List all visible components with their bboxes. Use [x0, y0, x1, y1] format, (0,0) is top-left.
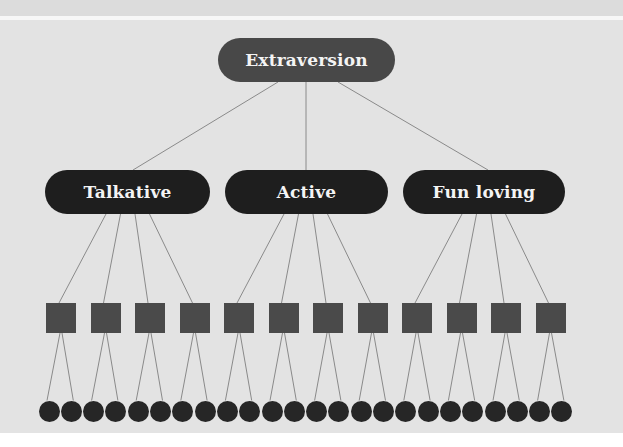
item-square [313, 303, 343, 333]
edge-item-response [463, 333, 475, 401]
edge-item-response [374, 333, 386, 401]
response-circle [172, 401, 193, 422]
edge-item-response [285, 333, 297, 401]
response-circle [485, 401, 506, 422]
item-square [491, 303, 521, 333]
node-fun-loving: Fun loving [403, 170, 565, 214]
edge-item-response [151, 333, 163, 401]
response-circle [150, 401, 171, 422]
node-active: Active [225, 170, 388, 214]
response-circle [195, 401, 216, 422]
edge-facet-item [237, 214, 284, 303]
edge-item-response [92, 333, 105, 401]
response-circle [551, 401, 572, 422]
edge-item-response [270, 333, 283, 401]
edge-facet-item [150, 214, 193, 303]
response-circle [373, 401, 394, 422]
edge-facet-item [135, 214, 148, 303]
response-circle [239, 401, 260, 422]
edge-facet-item [415, 214, 462, 303]
node-active-label: Active [277, 182, 337, 202]
edge-item-response [136, 333, 149, 401]
response-circle [306, 401, 327, 422]
response-circle [217, 401, 238, 422]
item-square [269, 303, 299, 333]
response-circle [440, 401, 461, 422]
edge-item-response [538, 333, 550, 401]
edge-item-response [225, 333, 238, 401]
response-circle [507, 401, 528, 422]
edge-facet-item [59, 214, 106, 303]
node-fun-loving-label: Fun loving [433, 182, 536, 202]
response-circle [462, 401, 483, 422]
edge-root-funloving [338, 82, 488, 170]
response-circle [529, 401, 550, 422]
item-square [180, 303, 210, 333]
edge-item-response [552, 333, 564, 401]
edge-facet-item [313, 214, 326, 303]
edge-item-response [315, 333, 327, 401]
node-extraversion-label: Extraversion [245, 50, 368, 70]
node-extraversion: Extraversion [218, 38, 395, 82]
item-square [358, 303, 388, 333]
edge-root-talkative [133, 82, 278, 170]
node-talkative: Talkative [45, 170, 210, 214]
item-square [91, 303, 121, 333]
edge-item-response [507, 333, 519, 401]
edge-facet-item [491, 214, 504, 303]
response-circle [418, 401, 439, 422]
edge-facet-item [506, 214, 549, 303]
node-talkative-label: Talkative [83, 182, 171, 202]
item-square [536, 303, 566, 333]
item-square [46, 303, 76, 333]
item-square [402, 303, 432, 333]
response-circle [61, 401, 82, 422]
edge-item-response [404, 333, 416, 401]
edge-facet-item [282, 214, 299, 303]
edge-item-response [240, 333, 252, 401]
item-square [447, 303, 477, 333]
edge-item-response [493, 333, 505, 401]
response-circle [128, 401, 149, 422]
edge-item-response [448, 333, 460, 401]
edge-item-response [329, 333, 341, 401]
response-circle [328, 401, 349, 422]
response-circle [351, 401, 372, 422]
edge-item-response [107, 333, 118, 401]
item-square [224, 303, 254, 333]
edge-facet-item [460, 214, 477, 303]
response-circle [284, 401, 305, 422]
item-square [135, 303, 165, 333]
response-circle [39, 401, 60, 422]
edge-item-response [196, 333, 208, 401]
edge-item-response [418, 333, 430, 401]
edge-item-response [181, 333, 194, 401]
edge-facet-item [104, 214, 121, 303]
response-circle [105, 401, 126, 422]
edge-facet-item [328, 214, 371, 303]
response-circle [83, 401, 104, 422]
response-circle [395, 401, 416, 422]
edge-item-response [47, 333, 60, 401]
response-circle [262, 401, 283, 422]
edge-item-response [62, 333, 73, 401]
edge-item-response [359, 333, 371, 401]
